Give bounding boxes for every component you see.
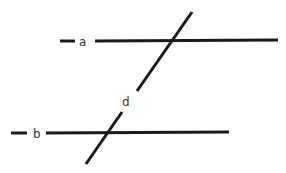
line-a-stroke [95,40,278,41]
transversal-label: d [122,95,130,109]
transversal-lower-segment [86,112,122,164]
line-b: b [11,127,229,141]
transversal-d: d [86,12,192,164]
parallel-lines-diagram: a b d [0,0,286,173]
line-b-stroke [46,132,229,133]
line-a-label: a [79,35,86,49]
transversal-upper-segment [137,12,192,91]
line-b-label: b [33,127,41,141]
